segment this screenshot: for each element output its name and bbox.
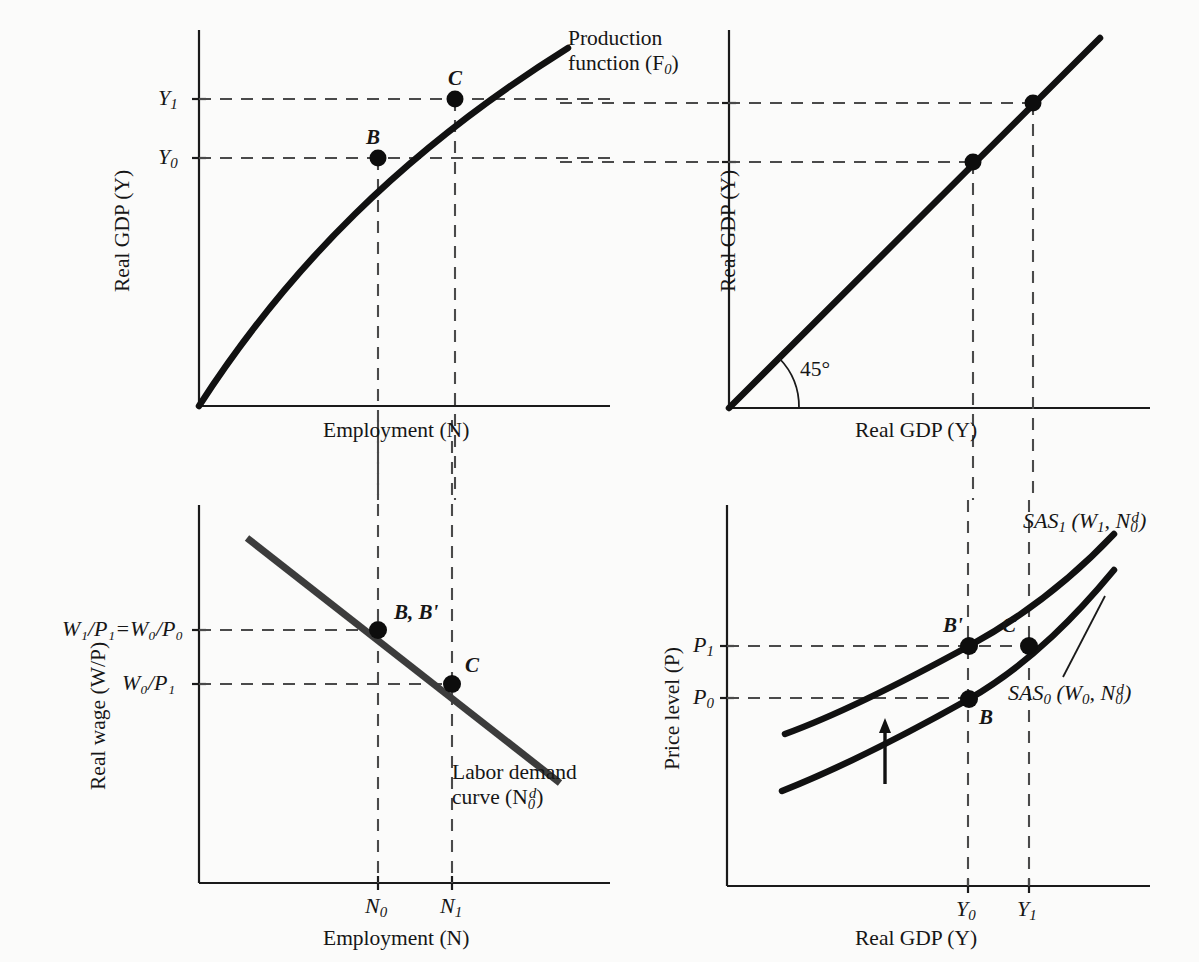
sas-point-c — [1020, 637, 1038, 655]
production-point-c — [447, 91, 464, 108]
production-function-curve-label: Production function (F0) — [568, 26, 679, 79]
labor-point-b-bprime — [369, 621, 387, 639]
production-ytick-label-y0: Y0 — [158, 144, 178, 173]
economics-four-panel-figure: Real GDP (Y) Employment (N) Y1 Y0 C B Pr… — [0, 0, 1199, 962]
production-x-axis-label: Employment (N) — [323, 418, 469, 443]
labor-ytick-label-upper: W₁/P₁=W₀/P₀ — [62, 616, 183, 642]
labor-point-c — [443, 675, 461, 693]
labor-xtick-label-n0: N0 — [365, 893, 387, 922]
labor-demand-curve-label: Labor demand curve (N0d) — [452, 760, 577, 813]
production-point-label-c: C — [448, 66, 462, 91]
production-point-b — [370, 150, 387, 167]
sas-shift-arrow-icon — [879, 718, 891, 784]
fortyfive-angle-label: 45° — [800, 357, 830, 382]
labor-point-label-c: C — [465, 653, 479, 678]
sas-point-label-c: C — [1002, 613, 1016, 638]
sas-xtick-label-y1: Y1 — [1017, 896, 1037, 925]
fortyfive-point-y1 — [1025, 95, 1042, 112]
fortyfive-angle-arc — [780, 359, 800, 409]
labor-x-axis-label: Employment (N) — [323, 926, 469, 951]
labor-xtick-label-n1: N1 — [440, 893, 462, 922]
sas-xtick-label-y0: Y0 — [956, 896, 976, 925]
sas-ytick-label-p1: P1 — [693, 632, 714, 661]
production-point-label-b: B — [366, 125, 380, 150]
sas-x-axis-label: Real GDP (Y) — [855, 926, 977, 951]
production-ytick-label-y1: Y1 — [158, 85, 178, 114]
sas1-curve-label: SAS1 (W1, N0d) — [1023, 508, 1146, 537]
sas-ytick-label-p0: P0 — [693, 684, 714, 713]
labor-y-axis-label: Real wage (W/P) — [86, 642, 111, 790]
fortyfive-point-y0 — [965, 154, 982, 171]
production-y-axis-label: Real GDP (Y) — [110, 170, 135, 292]
sas-y-axis-label: Price level (P) — [660, 647, 685, 770]
labor-point-label-b-bprime: B, B' — [394, 600, 438, 625]
sas-point-bprime — [960, 637, 978, 655]
sas-point-b — [960, 690, 978, 708]
fortyfive-x-axis-label: Real GDP (Y) — [855, 418, 977, 443]
fortyfive-y-axis-label: Real GDP (Y) — [716, 170, 741, 292]
fortyfive-degree-line — [729, 38, 1100, 408]
sas-point-label-bprime: B' — [943, 613, 963, 638]
figure-canvas — [0, 0, 1199, 962]
labor-ytick-label-lower: W₀/P₁ — [122, 670, 175, 696]
production-function-curve — [199, 48, 568, 406]
sas0-curve-label: SAS0 (W0, N0d) — [1008, 680, 1131, 709]
sas-point-label-b: B — [979, 705, 993, 730]
labor-panel-graphics — [192, 420, 610, 890]
labor-demand-curve — [247, 538, 560, 783]
